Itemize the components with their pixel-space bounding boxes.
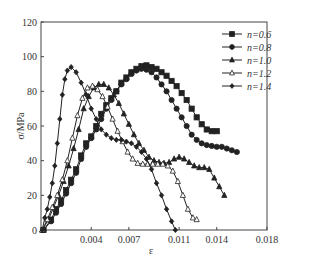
stress-strain-chart: 020406080100120 0.0040.0070.0110.0140.01…: [0, 0, 321, 266]
y-tick-label: 60: [27, 121, 37, 132]
legend-label: n=1.4: [247, 81, 271, 92]
x-axis-title: ε: [149, 245, 153, 256]
data-series: [40, 63, 240, 233]
y-tick-label: 100: [22, 51, 37, 62]
x-tick-label: 0.007: [118, 234, 141, 245]
series-n-0-6: [41, 63, 219, 233]
legend-item: n=0.6: [222, 29, 271, 40]
legend-item: n=1.0: [222, 55, 271, 66]
y-tick-label: 40: [27, 155, 37, 166]
x-tick-label: 0.004: [80, 234, 103, 245]
y-axis-title: σ/MPa: [15, 112, 26, 140]
y-tick-label: 0: [32, 225, 37, 236]
legend-label: n=0.8: [247, 42, 271, 53]
legend-label: n=1.0: [247, 55, 271, 66]
legend: n=0.6n=0.8n=1.0n=1.2n=1.4: [222, 29, 271, 92]
series-n-0-8: [41, 66, 240, 232]
x-tick-label: 0.011: [168, 234, 190, 245]
legend-item: n=1.4: [222, 81, 271, 92]
legend-label: n=1.2: [247, 68, 271, 79]
legend-label: n=0.6: [247, 29, 271, 40]
y-tick-label: 20: [27, 190, 37, 201]
legend-item: n=1.2: [222, 68, 271, 79]
x-tick-label: 0.014: [206, 234, 229, 245]
y-tick-label: 80: [27, 86, 37, 97]
legend-item: n=0.8: [222, 42, 271, 53]
x-tick-label: 0.018: [256, 234, 279, 245]
y-tick-label: 120: [22, 17, 37, 28]
